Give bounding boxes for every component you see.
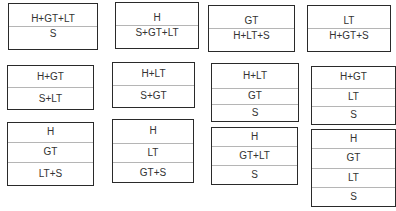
partition-box-7: H+LT GT S	[211, 63, 299, 122]
partition-cell: GT	[209, 6, 294, 28]
partition-box-9: H GT LT+S	[7, 122, 94, 186]
partition-cell: S+LT	[8, 87, 93, 109]
partition-cell: GT	[8, 142, 93, 162]
partition-cell: H+GT	[8, 66, 93, 87]
partition-cell: GT	[312, 148, 395, 167]
partition-cell: LT	[312, 168, 395, 187]
partition-box-1: H+GT+LT S	[8, 3, 98, 50]
partition-cell: LT	[113, 143, 193, 163]
partition-box-12: H GT LT S	[311, 129, 396, 207]
partition-cell: S	[9, 26, 97, 49]
partition-cell: H+GT+S	[308, 28, 390, 51]
partition-cell: H+LT	[212, 64, 298, 88]
partition-cell: H	[116, 3, 198, 25]
partition-cell: GT+S	[113, 162, 193, 182]
partition-box-11: H GT+LT S	[211, 127, 298, 185]
partition-cell: GT+LT	[212, 146, 297, 165]
partition-cell: S	[212, 104, 298, 121]
partition-cell: LT+S	[8, 162, 93, 186]
partition-cell: S	[212, 165, 297, 184]
partition-box-3: GT H+LT+S	[208, 5, 295, 52]
partition-box-6: H+LT S+GT	[112, 62, 195, 108]
partition-cell: GT	[212, 88, 298, 105]
partition-box-5: H+GT S+LT	[7, 65, 94, 110]
partition-cell: H+GT	[312, 67, 395, 88]
partition-cell: S+GT+LT	[116, 25, 198, 48]
partition-cell: LT	[308, 6, 390, 28]
partition-cell: LT	[312, 88, 395, 106]
partition-cell: S+GT	[113, 85, 194, 108]
partition-cell: S	[312, 106, 395, 124]
partition-cell: H+LT+S	[209, 28, 294, 51]
partition-cell: H	[212, 128, 297, 146]
partition-box-8: H+GT LT S	[311, 66, 396, 125]
partition-cell: S	[312, 187, 395, 206]
partition-box-10: H LT GT+S	[112, 119, 194, 183]
partition-cell: H+GT+LT	[9, 4, 97, 26]
partition-cell: H	[113, 120, 193, 143]
partition-box-4: LT H+GT+S	[307, 5, 391, 52]
partition-cell: H	[8, 123, 93, 142]
partition-cell: H	[312, 130, 395, 148]
partition-cell: H+LT	[113, 63, 194, 85]
partition-box-2: H S+GT+LT	[115, 2, 199, 49]
